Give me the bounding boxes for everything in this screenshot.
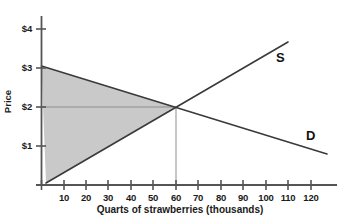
supply-demand-chart: $4 $3 $2 $1 Price 10 20 30 40 50 60 70 8…	[0, 0, 340, 221]
x-axis-tick-label-120: 120	[298, 192, 324, 203]
y-axis-tick-label-1: $1	[2, 140, 32, 151]
y-axis-tick-label-4: $4	[2, 23, 32, 34]
total-surplus-shaded-region	[42, 66, 177, 183]
y-axis-title: Price	[2, 82, 13, 122]
demand-curve-label: D	[306, 128, 315, 143]
supply-curve-label: S	[276, 50, 285, 65]
plot-area	[0, 0, 340, 221]
y-axis-tick-label-3: $3	[2, 62, 32, 73]
x-axis-title: Quarts of strawberries (thousands)	[41, 204, 319, 215]
